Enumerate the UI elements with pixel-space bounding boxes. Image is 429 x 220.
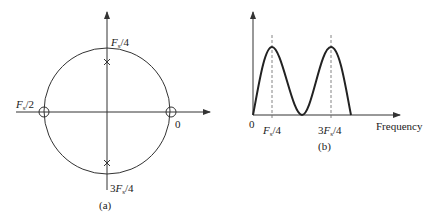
label-fs4-top: Fs/4 (110, 36, 130, 50)
figure-canvas: Fs/4 Fs/2 0 3Fs/4 (a) 0 Fs/4 3Fs/4 Frequ… (0, 0, 429, 220)
magnitude-response-plot: 0 Fs/4 3Fs/4 Frequency (b) (249, 12, 423, 153)
pole-zero-plot: Fs/4 Fs/2 0 3Fs/4 (a) (15, 12, 210, 212)
label-zero-right: 0 (175, 118, 181, 130)
caption-b: (b) (318, 140, 331, 153)
label-origin: 0 (249, 118, 255, 130)
label-fs2-left: Fs/2 (15, 98, 34, 112)
tick-label-3fs4: 3Fs/4 (318, 124, 342, 138)
label-3fs4-bottom: 3Fs/4 (110, 182, 134, 196)
x-axis-label: Frequency (376, 120, 423, 132)
tick-label-fs4: Fs/4 (262, 124, 282, 138)
response-curve (253, 47, 351, 115)
caption-a: (a) (99, 199, 112, 212)
